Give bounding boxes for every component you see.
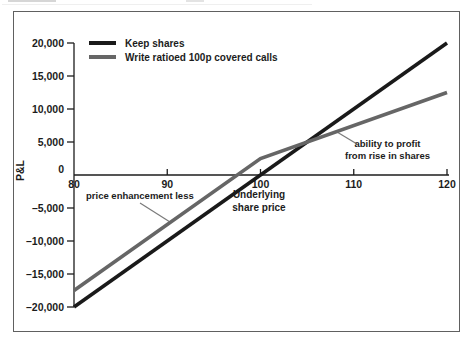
svg-text:–10,000: –10,000 — [26, 235, 64, 247]
svg-text:90: 90 — [161, 178, 173, 190]
svg-text:0: 0 — [58, 163, 64, 175]
annotation-ability-to-profit: ability to profit from rise in shares — [340, 138, 435, 161]
annotation-line: from rise in shares — [340, 150, 435, 162]
legend-label: Write ratioed 100p covered calls — [125, 52, 278, 63]
legend-swatch — [89, 41, 116, 45]
svg-text:–20,000: –20,000 — [26, 301, 64, 313]
annotation-price-enhancement: price enhancement less — [86, 190, 194, 201]
annotation-line: Underlying — [219, 188, 299, 201]
payoff-chart-figure: 20,00015,00010,0005,0000–5,000–10,000–15… — [0, 0, 470, 343]
annotation-line: ability to profit — [340, 138, 435, 150]
legend-item-keep-shares: Keep shares — [89, 36, 278, 50]
svg-text:5,000: 5,000 — [38, 136, 64, 148]
svg-text:80: 80 — [68, 178, 80, 190]
svg-text:–5,000: –5,000 — [32, 202, 64, 214]
annotation-underlying-share-price: Underlying share price — [219, 188, 299, 214]
svg-text:20,000: 20,000 — [32, 37, 64, 49]
legend: Keep shares Write ratioed 100p covered c… — [89, 36, 278, 64]
svg-text:110: 110 — [345, 178, 362, 190]
legend-label: Keep shares — [125, 38, 184, 49]
svg-text:15,000: 15,000 — [32, 70, 64, 82]
svg-text:120: 120 — [438, 178, 456, 190]
y-axis-title: P&L — [14, 160, 26, 181]
annotation-line: share price — [219, 201, 299, 214]
svg-text:10,000: 10,000 — [32, 103, 64, 115]
legend-swatch — [89, 55, 116, 59]
legend-item-covered-calls: Write ratioed 100p covered calls — [89, 50, 278, 64]
svg-text:–15,000: –15,000 — [26, 268, 64, 280]
